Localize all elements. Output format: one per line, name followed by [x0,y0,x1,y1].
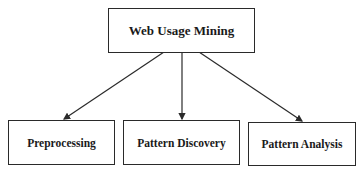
node-label: Pattern Discovery [137,137,225,149]
root-node-label: Web Usage Mining [129,23,234,39]
arrow-to-preprocessing [64,52,164,119]
node-label: Preprocessing [27,137,96,149]
node-pattern-analysis: Pattern Analysis [248,122,356,166]
node-preprocessing: Preprocessing [8,120,115,165]
node-pattern-discovery: Pattern Discovery [123,120,240,165]
node-label: Pattern Analysis [262,138,343,150]
root-node-web-usage-mining: Web Usage Mining [108,8,255,53]
arrow-to-pattern-analysis [199,52,302,121]
